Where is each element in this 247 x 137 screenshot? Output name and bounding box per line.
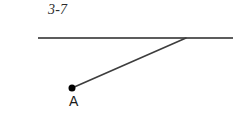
ray-from-point-a: [72, 38, 186, 88]
geometry-canvas: [0, 0, 247, 137]
point-a-marker: [69, 85, 76, 92]
figure-container: 3-7 A: [0, 0, 247, 137]
point-a-label: A: [69, 93, 78, 109]
